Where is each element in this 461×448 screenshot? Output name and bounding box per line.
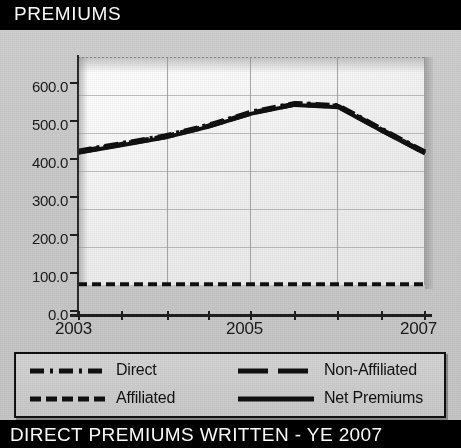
line-chart: 600.0 500.0 400.0 300.0 200.0 100.0 0.0 [0,30,461,315]
plot-right-edge [425,57,433,289]
premiums-chart-page: PREMIUMS 600.0 500.0 400.0 300.0 200.0 1… [0,0,461,448]
legend-label-net-premiums: Net Premiums [324,389,423,407]
x-tick-label: 2003 [55,319,92,339]
legend-swatch-solid-icon [238,389,314,409]
page-title: PREMIUMS [14,3,121,25]
title-bar: PREMIUMS [0,0,461,30]
legend-swatch-dashed-icon [30,389,106,409]
y-tick-label: 300.0 [32,192,68,209]
legend-swatch-long-dash-icon [238,361,314,381]
y-axis [77,55,79,317]
y-axis-tick [70,234,79,236]
y-axis-labels: 600.0 500.0 400.0 300.0 200.0 100.0 0.0 [0,30,72,300]
y-tick-label: 400.0 [32,154,68,171]
y-tick-label: 500.0 [32,116,68,133]
x-tick-label: 2005 [226,319,263,339]
y-axis-tick [70,272,79,274]
bottom-section-title: DIRECT PREMIUMS WRITTEN - YE 2007 [10,424,383,446]
y-tick-label: 200.0 [32,230,68,247]
chart-body: 600.0 500.0 400.0 300.0 200.0 100.0 0.0 [0,30,461,420]
x-tick-label: 2007 [400,319,437,339]
y-axis-tick [70,196,79,198]
y-tick-label: 100.0 [32,268,68,285]
legend-swatch-dash-dot-icon [30,361,106,381]
series-line-net-premiums [78,105,425,154]
y-tick-label: 600.0 [32,78,68,95]
y-axis-tick [70,120,79,122]
chart-legend: Direct Non-Affiliated Affiliated Net Pre… [14,352,446,418]
bottom-section-bar: DIRECT PREMIUMS WRITTEN - YE 2007 [0,420,461,448]
plot-area [78,57,425,285]
x-axis-labels: 2003 2005 2007 [0,319,461,345]
y-axis-tick [70,82,79,84]
legend-label-non-affiliated: Non-Affiliated [324,361,417,379]
series-canvas [78,57,425,285]
legend-label-affiliated: Affiliated [116,389,175,407]
legend-label-direct: Direct [116,361,157,379]
y-axis-tick [70,158,79,160]
